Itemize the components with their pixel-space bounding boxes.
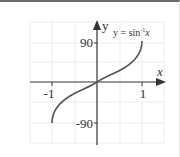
x-axis-label: x [156, 64, 163, 79]
function-label: y = sin-1x [113, 27, 150, 38]
chart-svg: -1 1 90 -90 y x y = sin-1x [0, 0, 180, 157]
x-tick-label-neg1: -1 [44, 86, 55, 101]
function-label-suffix: x [144, 27, 150, 38]
x-tick-label-1: 1 [140, 86, 147, 101]
y-axis-label: y [102, 18, 109, 33]
y-tick-label-90: 90 [80, 35, 93, 50]
function-label-prefix: y = sin [113, 27, 140, 38]
y-tick-label-neg90: -90 [76, 116, 93, 131]
